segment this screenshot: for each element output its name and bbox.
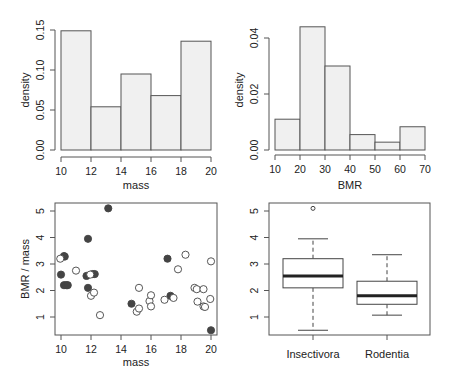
x-tick-label: 70 xyxy=(419,163,431,175)
y-tick-label: 1 xyxy=(248,314,260,320)
point-insectivora xyxy=(84,284,91,291)
histogram-bar xyxy=(61,31,91,150)
point-insectivora xyxy=(64,282,71,289)
point-insectivora xyxy=(57,271,64,278)
x-tick-label: 20 xyxy=(205,165,217,177)
y-tick-label: 0.00 xyxy=(34,140,46,161)
x-tick-label: 30 xyxy=(319,163,331,175)
x-category-label: Rodentia xyxy=(365,348,410,360)
point-rodentia xyxy=(200,286,207,293)
y-tick-label: 4 xyxy=(248,234,260,240)
point-insectivora xyxy=(105,205,112,212)
box-iqr xyxy=(357,281,417,304)
y-tick-label: 2 xyxy=(34,287,46,293)
x-tick-label: 12 xyxy=(85,165,97,177)
point-insectivora xyxy=(84,235,91,242)
y-tick-label: 0.10 xyxy=(34,60,46,81)
point-rodentia xyxy=(87,271,94,278)
x-axis-label: BMR xyxy=(338,179,363,191)
histogram-bar xyxy=(275,119,300,150)
histogram-bmr: 0.000.020.0410203040506070BMRdensity xyxy=(233,27,431,191)
y-tick-label: 5 xyxy=(34,208,46,214)
x-category-label: Insectivora xyxy=(286,348,340,360)
point-rodentia xyxy=(90,289,97,296)
x-tick-label: 20 xyxy=(294,163,306,175)
box-iqr xyxy=(283,259,343,288)
point-rodentia xyxy=(201,303,208,310)
y-tick-label: 2 xyxy=(248,287,260,293)
y-tick-label: 0.00 xyxy=(248,140,260,161)
chart-grid: 0.000.050.100.15101214161820massdensity … xyxy=(0,0,451,382)
x-tick-label: 12 xyxy=(85,343,97,355)
point-rodentia xyxy=(194,298,201,305)
x-axis-label: mass xyxy=(123,179,150,191)
x-tick-label: 14 xyxy=(115,343,127,355)
histogram-bar xyxy=(375,142,400,150)
x-tick-label: 18 xyxy=(175,165,187,177)
y-tick-label: 1 xyxy=(34,314,46,320)
point-rodentia xyxy=(147,303,154,310)
boxplot-bmr-per-mass-by-order: 12345InsectivoraRodentia xyxy=(248,203,430,360)
x-axis-label: mass xyxy=(123,356,150,368)
y-tick-label: 3 xyxy=(34,261,46,267)
point-rodentia xyxy=(193,286,200,293)
x-tick-label: 18 xyxy=(175,343,187,355)
x-tick-label: 10 xyxy=(269,163,281,175)
x-tick-label: 16 xyxy=(145,165,157,177)
point-rodentia xyxy=(135,305,142,312)
point-rodentia xyxy=(182,251,189,258)
point-rodentia xyxy=(174,266,181,273)
histogram-bar xyxy=(400,127,425,150)
histogram-bar xyxy=(350,135,375,150)
histogram-bar xyxy=(300,27,325,150)
histogram-bar xyxy=(151,96,181,150)
histogram-mass: 0.000.050.100.15101214161820massdensity xyxy=(19,20,217,191)
y-axis-label: density xyxy=(233,72,245,107)
x-tick-label: 20 xyxy=(205,343,217,355)
y-tick-label: 4 xyxy=(34,234,46,240)
x-tick-label: 16 xyxy=(145,343,157,355)
point-insectivora xyxy=(128,300,135,307)
x-tick-label: 60 xyxy=(394,163,406,175)
x-tick-label: 50 xyxy=(369,163,381,175)
point-rodentia xyxy=(207,258,214,265)
y-tick-label: 3 xyxy=(248,261,260,267)
x-tick-label: 40 xyxy=(344,163,356,175)
point-rodentia xyxy=(72,267,79,274)
point-rodentia xyxy=(135,284,142,291)
y-tick-label: 0.04 xyxy=(248,28,260,49)
y-tick-label: 5 xyxy=(248,208,260,214)
point-insectivora xyxy=(164,255,171,262)
histogram-bar xyxy=(121,74,151,150)
scatter-bmr-per-mass: 12345101214161820massBMR / mass xyxy=(19,203,217,368)
point-rodentia xyxy=(147,292,154,299)
point-rodentia xyxy=(207,295,214,302)
x-tick-label: 14 xyxy=(115,165,127,177)
point-rodentia xyxy=(170,294,177,301)
point-rodentia xyxy=(161,296,168,303)
y-tick-label: 0.02 xyxy=(248,84,260,105)
y-tick-label: 0.15 xyxy=(34,20,46,41)
y-axis-label: density xyxy=(19,72,31,107)
histogram-bar xyxy=(325,66,350,150)
histogram-bar xyxy=(181,41,211,150)
y-axis-label: BMR / mass xyxy=(19,239,31,299)
outlier-point xyxy=(311,206,315,210)
x-tick-label: 10 xyxy=(55,165,67,177)
point-insectivora xyxy=(207,327,214,334)
point-rodentia xyxy=(57,255,64,262)
point-rodentia xyxy=(96,312,103,319)
y-tick-label: 0.05 xyxy=(34,100,46,121)
histogram-bar xyxy=(91,107,121,150)
x-tick-label: 10 xyxy=(55,343,67,355)
